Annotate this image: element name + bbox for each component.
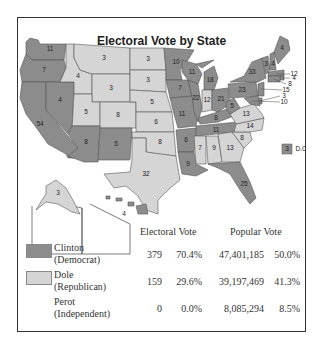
popular-votes: 39,197,469 <box>208 276 264 287</box>
state-ev-label: 11 <box>213 126 220 133</box>
state-ev-label: 5 <box>150 98 154 105</box>
state-ev-label: 21 <box>217 95 225 102</box>
state-ev-label: 8 <box>116 111 120 118</box>
state-shape-fl <box>208 162 256 204</box>
state-ev-label: 33 <box>248 68 256 75</box>
state-nm: 5 <box>98 128 132 160</box>
electoral-pct: 0.0% <box>166 303 202 314</box>
state-ev-label: 11 <box>47 45 54 52</box>
state-ev-label: 8 <box>240 134 244 141</box>
dc-label: D.C. <box>296 145 306 152</box>
state-ms: 7 <box>194 136 206 164</box>
state-ev-label: 8 <box>214 114 218 121</box>
electoral-vote-header: Electoral Vote <box>140 226 197 237</box>
candidate-party: (Independent) <box>54 308 110 320</box>
state-ev-label: 3 <box>109 84 113 91</box>
state-ev-label: 11 <box>179 110 186 117</box>
state-ev-label: 11 <box>189 68 196 75</box>
popular-votes: 8,085,294 <box>208 303 264 314</box>
electoral-votes: 379 <box>136 249 162 260</box>
state-in: 12 <box>202 90 212 112</box>
state-pa: 23 <box>228 82 258 98</box>
state-ev-label: 32 <box>142 170 150 177</box>
candidate-name: Dole <box>54 269 73 281</box>
state-co: 8 <box>100 102 136 128</box>
state-ev-label: 4 <box>76 72 80 79</box>
electoral-pct: 29.6% <box>166 276 202 287</box>
candidate-party: (Democrat) <box>54 254 100 266</box>
state-ny: 33 <box>230 58 266 82</box>
state-ev-label: 13 <box>242 110 250 117</box>
state-ev-label: 5 <box>114 140 118 147</box>
state-ev-label: 18 <box>206 76 214 83</box>
state-mt: 3 <box>74 44 130 74</box>
legend-swatch-democrat <box>26 244 52 258</box>
state-ev-label: 25 <box>240 180 248 187</box>
callout-line <box>260 96 280 101</box>
state-ev-label: 3 <box>146 55 150 62</box>
state-ks: 6 <box>136 112 174 132</box>
popular-vote-header: Popular Vote <box>230 226 282 237</box>
candidate-name: Perot <box>54 296 75 308</box>
state-ev-label: 54 <box>36 120 44 127</box>
state-ev-label: 3 <box>102 54 106 61</box>
map-frame: Electoral Vote by State 1175444335885335… <box>17 17 306 332</box>
state-ar: 6 <box>176 128 196 152</box>
state-ev-label: 7 <box>198 144 202 151</box>
state-ev-label: 10 <box>280 98 288 105</box>
state-ev-label: 5 <box>230 102 234 109</box>
state-ev-label: 7 <box>178 84 182 91</box>
electoral-votes: 0 <box>136 303 162 314</box>
state-ev-label: 4 <box>122 210 126 217</box>
state-ev-label: 13 <box>226 144 234 151</box>
state-ev-label: 4 <box>292 74 296 81</box>
candidate-name: Clinton <box>54 242 84 254</box>
state-ev-label: 9 <box>186 160 190 167</box>
state-ev-label: 4 <box>280 44 284 51</box>
popular-pct: 41.3% <box>266 276 300 287</box>
popular-votes: 47,401,185 <box>208 249 264 260</box>
dc-ev-label: 3 <box>285 145 289 152</box>
popular-pct: 50.0% <box>266 249 300 260</box>
state-ev-label: 14 <box>246 122 254 129</box>
state-md: 10 <box>244 96 288 106</box>
state-ev-label: 8 <box>84 138 88 145</box>
state-ev-label: 4 <box>58 96 62 103</box>
state-ev-label: 6 <box>184 136 188 143</box>
state-ev-label: 22 <box>192 94 200 101</box>
electoral-pct: 70.4% <box>166 249 202 260</box>
state-ev-label: 23 <box>238 86 246 93</box>
state-wy: 3 <box>92 74 130 102</box>
state-me: 4 <box>274 36 290 64</box>
state-fl: 25 <box>208 162 256 204</box>
state-ev-label: 3 <box>56 189 60 196</box>
state-ev-label: 7 <box>42 66 46 73</box>
state-ne: 5 <box>130 90 172 112</box>
state-shape-ak <box>36 180 80 214</box>
dc-box: 3D.C. <box>282 144 305 154</box>
state-wa: 11 <box>26 38 66 60</box>
state-ev-label: 6 <box>154 118 158 125</box>
electoral-votes: 159 <box>136 276 162 287</box>
state-ev-label: 5 <box>84 108 88 115</box>
state-ia: 7 <box>166 80 192 98</box>
state-ak: 3 <box>36 180 80 214</box>
state-ev-label: 4 <box>271 60 275 67</box>
state-ev-label: 9 <box>212 144 216 151</box>
state-ev-label: 8 <box>158 138 162 145</box>
state-shape-ma <box>268 70 284 76</box>
state-ev-label: 12 <box>203 96 211 103</box>
candidate-party: (Republican) <box>54 281 106 293</box>
popular-pct: 8.5% <box>266 303 300 314</box>
state-ev-label: 3 <box>264 60 268 67</box>
state-ev-label: 3 <box>146 76 150 83</box>
state-nd: 3 <box>130 48 166 70</box>
state-sd: 3 <box>130 70 166 92</box>
legend-swatch-republican <box>26 271 52 285</box>
state-ev-label: 10 <box>172 58 180 65</box>
